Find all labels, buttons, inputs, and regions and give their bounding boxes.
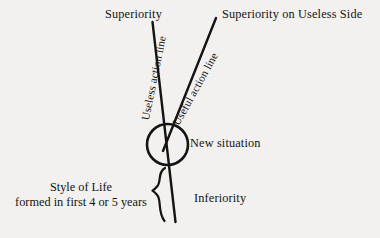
label-superiority: Superiority: [105, 8, 162, 21]
label-new-situation: New situation: [190, 137, 261, 150]
style-of-life-brace: [153, 168, 166, 221]
diagram-canvas: Superiority Superiority on Useless Side …: [0, 0, 380, 238]
label-style-of-life: Style of Life formed in first 4 or 5 yea…: [8, 180, 154, 210]
label-superiority-on-useless-side: Superiority on Useless Side: [222, 8, 362, 21]
label-style-of-life-line2: formed in first 4 or 5 years: [8, 195, 154, 210]
label-inferiority: Inferiority: [194, 192, 246, 205]
label-style-of-life-line1: Style of Life: [8, 180, 154, 195]
